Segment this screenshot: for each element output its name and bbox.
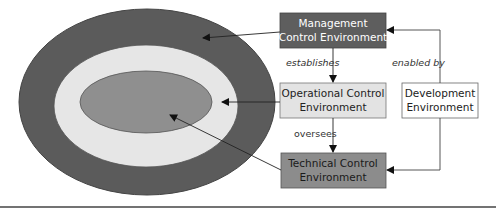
label-establishes: establishes bbox=[286, 57, 339, 68]
development-box-line2: Environment bbox=[406, 101, 473, 113]
development-environment-box: Development Environment bbox=[402, 83, 478, 118]
development-box-line1: Development bbox=[405, 87, 476, 99]
operational-box-line2: Environment bbox=[299, 101, 366, 113]
operational-box-line1: Operational Control bbox=[282, 87, 385, 99]
arrow-enabled-by-technical bbox=[387, 118, 440, 170]
technical-box-line2: Environment bbox=[299, 171, 366, 183]
label-oversees: oversees bbox=[294, 128, 337, 139]
operational-control-box: Operational Control Environment bbox=[280, 83, 386, 118]
label-enabled-by: enabled by bbox=[392, 57, 445, 68]
management-box-line1: Management bbox=[298, 17, 367, 29]
management-control-box: Management Control Environment bbox=[279, 13, 387, 48]
technical-box-line1: Technical Control bbox=[287, 157, 378, 169]
management-box-line2: Control Environment bbox=[279, 31, 387, 43]
inner-ellipse-technical bbox=[80, 71, 212, 133]
technical-control-box: Technical Control Environment bbox=[281, 153, 386, 188]
diagram-canvas: Management Control Environment Operation… bbox=[0, 0, 496, 211]
